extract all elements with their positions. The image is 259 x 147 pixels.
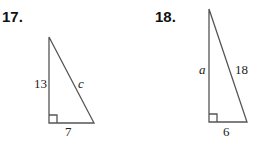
leg-label-vertical-18: a xyxy=(199,62,206,78)
hypotenuse-label-18: 18 xyxy=(235,62,248,78)
problem-number-17: 17. xyxy=(2,8,23,25)
right-angle-marker-18 xyxy=(209,114,217,122)
triangle-17 xyxy=(49,37,94,123)
triangles-canvas xyxy=(0,0,259,147)
right-angle-marker-17 xyxy=(49,115,57,123)
problem-number-18: 18. xyxy=(155,8,176,25)
leg-label-horizontal-17: 7 xyxy=(65,124,72,140)
hypotenuse-label-17: c xyxy=(78,76,84,92)
leg-label-vertical-17: 13 xyxy=(34,76,47,92)
leg-label-horizontal-18: 6 xyxy=(223,124,230,140)
